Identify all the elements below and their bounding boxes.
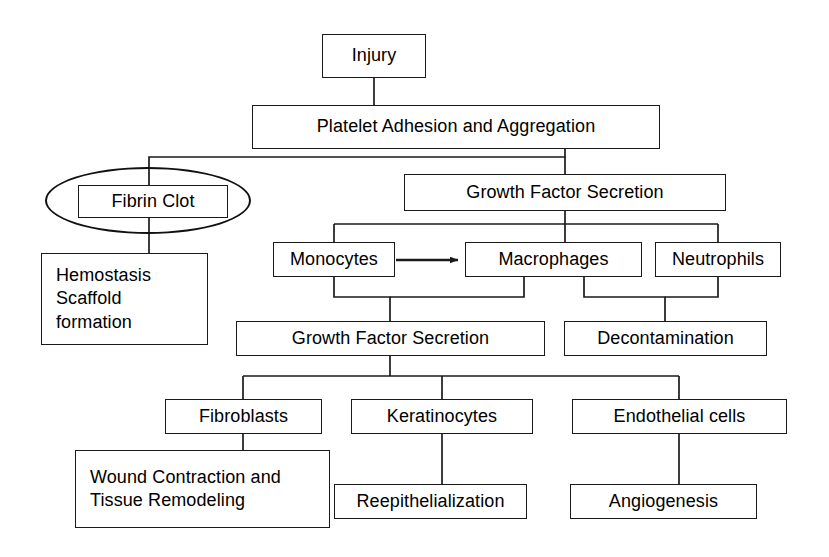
node-macrophages-label: Macrophages bbox=[498, 248, 608, 271]
node-keratinocytes-label: Keratinocytes bbox=[387, 405, 497, 428]
node-angiogenesis[interactable]: Angiogenesis bbox=[570, 484, 757, 519]
node-decontamination-label: Decontamination bbox=[597, 327, 734, 350]
node-reepithelialization-label: Reepithelialization bbox=[357, 490, 505, 513]
node-fibroblasts-label: Fibroblasts bbox=[199, 405, 288, 428]
node-endothelial-cells[interactable]: Endothelial cells bbox=[572, 399, 787, 434]
node-wound-contraction-and-tissue-remodeling-label: Wound Contraction and Tissue Remodeling bbox=[90, 466, 281, 512]
node-monocytes-label: Monocytes bbox=[290, 248, 378, 271]
node-monocytes[interactable]: Monocytes bbox=[273, 242, 395, 277]
node-endothelial-cells-label: Endothelial cells bbox=[614, 405, 746, 428]
edge-neutrophils-to-decontamination bbox=[665, 277, 718, 297]
node-wound-contraction-and-tissue-remodeling[interactable]: Wound Contraction and Tissue Remodeling bbox=[75, 450, 330, 528]
node-injury[interactable]: Injury bbox=[322, 34, 426, 78]
node-fibrin-clot-label: Fibrin Clot bbox=[111, 190, 194, 213]
node-platelet-adhesion-and-aggregation-label: Platelet Adhesion and Aggregation bbox=[317, 115, 596, 138]
edge-macrophages-to-gfs-bottom bbox=[390, 277, 524, 297]
node-angiogenesis-label: Angiogenesis bbox=[609, 490, 718, 513]
node-injury-label: Injury bbox=[352, 44, 397, 67]
flowchart-canvas: Injury Platelet Adhesion and Aggregation… bbox=[0, 0, 829, 557]
node-growth-factor-secretion-bottom-label: Growth Factor Secretion bbox=[292, 327, 489, 350]
node-reepithelialization[interactable]: Reepithelialization bbox=[334, 484, 527, 519]
edge-monocytes-to-gfs-bottom bbox=[334, 277, 390, 321]
node-neutrophils[interactable]: Neutrophils bbox=[655, 242, 781, 277]
node-keratinocytes[interactable]: Keratinocytes bbox=[351, 399, 533, 434]
node-hemostasis-scaffold-formation-label: Hemostasis Scaffold formation bbox=[56, 264, 151, 333]
edge-macrophages-to-decontamination bbox=[584, 277, 665, 321]
node-growth-factor-secretion-top-label: Growth Factor Secretion bbox=[466, 181, 663, 204]
node-growth-factor-secretion-top[interactable]: Growth Factor Secretion bbox=[404, 174, 726, 211]
node-fibroblasts[interactable]: Fibroblasts bbox=[165, 399, 322, 434]
node-decontamination[interactable]: Decontamination bbox=[564, 321, 767, 356]
node-growth-factor-secretion-bottom[interactable]: Growth Factor Secretion bbox=[236, 321, 545, 356]
node-fibrin-clot[interactable]: Fibrin Clot bbox=[78, 185, 228, 218]
node-platelet-adhesion-and-aggregation[interactable]: Platelet Adhesion and Aggregation bbox=[252, 105, 660, 149]
node-neutrophils-label: Neutrophils bbox=[672, 248, 764, 271]
node-macrophages[interactable]: Macrophages bbox=[465, 242, 642, 277]
node-hemostasis-scaffold-formation[interactable]: Hemostasis Scaffold formation bbox=[41, 253, 208, 345]
